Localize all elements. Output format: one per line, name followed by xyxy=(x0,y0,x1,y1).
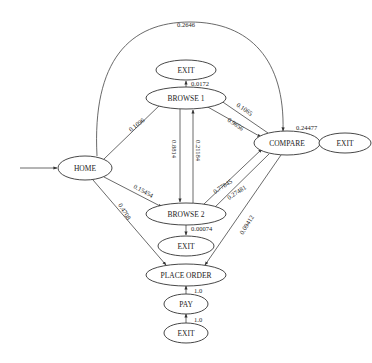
node-pay: PAY xyxy=(164,294,208,314)
node-browse1-label: BROWSE 1 xyxy=(168,94,205,103)
edge-label-home-browse2: 0.15454 xyxy=(133,183,156,199)
edge-label-compare-place-order: 0.09412 xyxy=(238,214,255,236)
edge-label-pay-exit: 1.0 xyxy=(194,316,202,323)
node-browse2-label: BROWSE 2 xyxy=(168,210,205,219)
edge-home-place-order xyxy=(93,180,166,265)
edge-label-browse1-browse2: 0.8814 xyxy=(171,140,178,159)
node-exit-top: EXIT xyxy=(156,60,216,80)
node-pay-label: PAY xyxy=(179,300,193,309)
edge-label-browse1-compare: 0.9656 xyxy=(226,116,245,132)
node-exit-bottom-label: EXIT xyxy=(177,329,194,338)
node-exit-right: EXIT xyxy=(319,133,371,153)
node-browse1: BROWSE 1 xyxy=(146,87,226,109)
node-place-order-label: PLACE ORDER xyxy=(160,271,211,280)
node-exit-right-label: EXIT xyxy=(336,139,353,148)
edge-label-home-browse1: 0.1096 xyxy=(127,116,146,133)
node-home: HOME xyxy=(58,156,112,180)
node-exit-top-label: EXIT xyxy=(177,66,194,75)
node-place-order: PLACE ORDER xyxy=(146,264,226,286)
node-compare-label: COMPARE xyxy=(269,139,305,148)
edge-label-browse2-exit: 0.00074 xyxy=(191,225,213,232)
node-browse2: BROWSE 2 xyxy=(146,203,226,225)
node-compare: COMPARE xyxy=(254,131,320,155)
node-exit-bottom: EXIT xyxy=(164,323,208,343)
edge-label-compare-exit: 0.24477 xyxy=(296,124,318,131)
edge-label-browse2-browse1: 0.21184 xyxy=(195,140,202,162)
edge-label-home-compare: 0.2646 xyxy=(177,21,196,28)
node-home-label: HOME xyxy=(74,164,97,173)
edge-label-browse1-exit: 0.0172 xyxy=(191,80,209,87)
edge-compare-browse2 xyxy=(211,154,269,211)
node-exit-browse2: EXIT xyxy=(158,236,214,256)
state-diagram: 0.2646 0.0172 0.1096 0.1065 0.9656 0.881… xyxy=(0,0,372,363)
node-exit-browse2-label: EXIT xyxy=(177,242,194,251)
edge-label-compare-browse1: 0.1065 xyxy=(235,101,254,117)
edge-label-place-order-pay: 1.0 xyxy=(194,287,202,294)
